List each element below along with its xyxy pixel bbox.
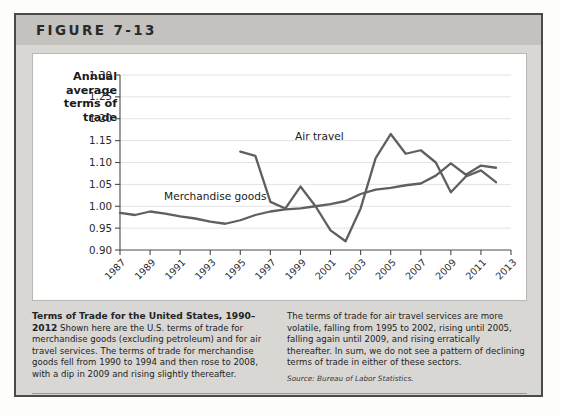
- x-tick-label: 2003: [343, 257, 368, 282]
- caption-divider: [32, 393, 527, 394]
- series-line-air-travel: [240, 134, 496, 241]
- caption-right-column: The terms of trade for air travel servic…: [287, 311, 527, 387]
- chart-plot-panel: Annual average terms of trade 0.900.951.…: [32, 53, 527, 301]
- y-tick-label: 1.00: [89, 200, 112, 212]
- x-tick-label: 2001: [313, 257, 338, 282]
- line-chart: 0.900.951.001.051.101.151.201.251.301987…: [33, 54, 528, 302]
- x-tick-label: 1997: [253, 257, 278, 282]
- caption-left-column: Terms of Trade for the United States, 19…: [32, 311, 272, 387]
- x-tick-label: 2007: [403, 257, 428, 282]
- x-tick-label: 1995: [223, 257, 248, 282]
- source-note: Source: Bureau of Labor Statistics.: [287, 373, 527, 385]
- figure-number-label: FIGURE 7-13: [36, 22, 157, 38]
- caption-right-body: The terms of trade for air travel servic…: [287, 311, 525, 367]
- figure-container: FIGURE 7-13 Annual average terms of trad…: [14, 13, 543, 397]
- series-label-air: Air travel: [295, 130, 344, 142]
- series-label-merch: Merchandise goods: [164, 190, 267, 202]
- y-tick-label: 1.10: [89, 156, 112, 168]
- y-tick-label: 1.15: [89, 134, 112, 146]
- y-tick-label: 1.30: [89, 69, 112, 81]
- y-tick-label: 0.95: [89, 222, 112, 234]
- caption-left-body: Shown here are the U.S. terms of trade f…: [32, 323, 261, 379]
- y-tick-label: 1.20: [89, 112, 112, 124]
- x-tick-label: 1991: [163, 257, 188, 282]
- x-tick-label: 2011: [463, 257, 488, 282]
- x-tick-label: 2009: [433, 257, 458, 282]
- x-tick-label: 2013: [493, 257, 518, 282]
- y-tick-label: 1.25: [89, 90, 112, 102]
- x-tick-label: 1989: [132, 257, 157, 282]
- y-tick-label: 1.05: [89, 178, 112, 190]
- x-tick-label: 1999: [283, 257, 308, 282]
- y-tick-label: 0.90: [89, 244, 112, 256]
- x-tick-label: 2005: [373, 257, 398, 282]
- figure-caption: Terms of Trade for the United States, 19…: [32, 311, 527, 387]
- x-tick-label: 1993: [193, 257, 218, 282]
- x-tick-label: 1987: [102, 257, 127, 282]
